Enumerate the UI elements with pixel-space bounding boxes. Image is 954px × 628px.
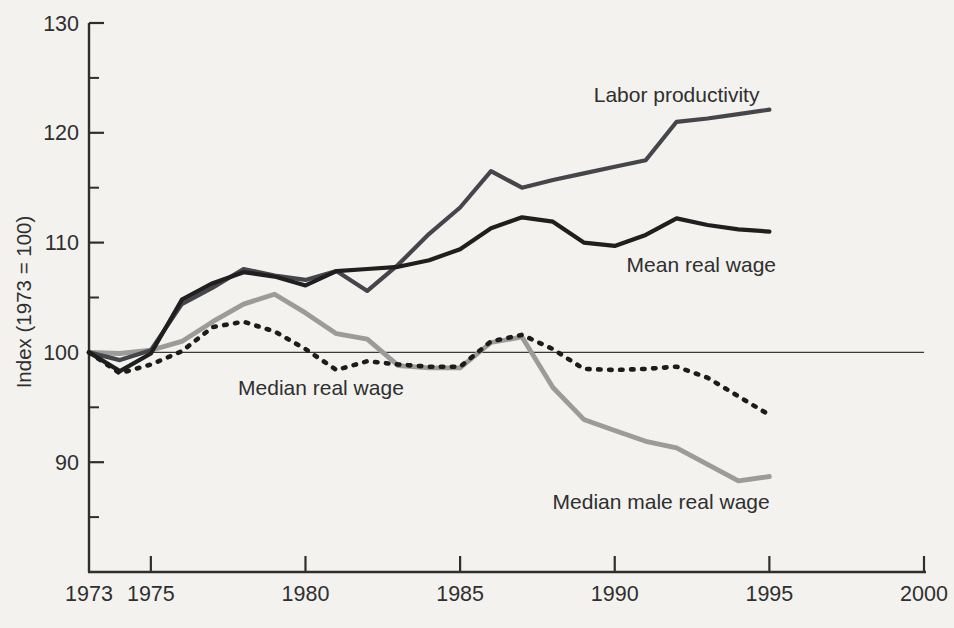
x-tick-label-1995: 1995 — [745, 582, 793, 606]
series-line-median-male-real-wage — [89, 294, 769, 481]
x-tick-label-1980: 1980 — [282, 582, 330, 606]
series-line-labor-productivity — [89, 110, 769, 360]
series-label-median-male-real-wage: Median male real wage — [553, 490, 770, 513]
x-tick-label-1985: 1985 — [436, 582, 484, 606]
y-tick-label-90: 90 — [55, 451, 79, 475]
x-tick-label-1975: 1975 — [127, 582, 175, 606]
y-axis-title: Index (1973 = 100) — [12, 216, 35, 389]
x-tick-label-1990: 1990 — [591, 582, 639, 606]
y-tick-label-130: 130 — [43, 12, 79, 36]
series-label-median-real-wage: Median real wage — [238, 376, 404, 399]
series-line-mean-real-wage — [89, 217, 769, 371]
y-tick-label-120: 120 — [43, 121, 79, 145]
series-label-labor-productivity: Labor productivity — [594, 83, 760, 106]
series-label-mean-real-wage: Mean real wage — [627, 253, 776, 276]
x-tick-label-1973: 1973 — [65, 582, 113, 606]
y-tick-label-110: 110 — [45, 231, 79, 255]
x-tick-label-2000: 2000 — [900, 582, 948, 606]
book-page-chart: 9010011012013019731975198019851990199520… — [0, 0, 954, 628]
wage-productivity-line-chart: 9010011012013019731975198019851990199520… — [0, 0, 954, 628]
y-tick-label-100: 100 — [43, 341, 79, 365]
